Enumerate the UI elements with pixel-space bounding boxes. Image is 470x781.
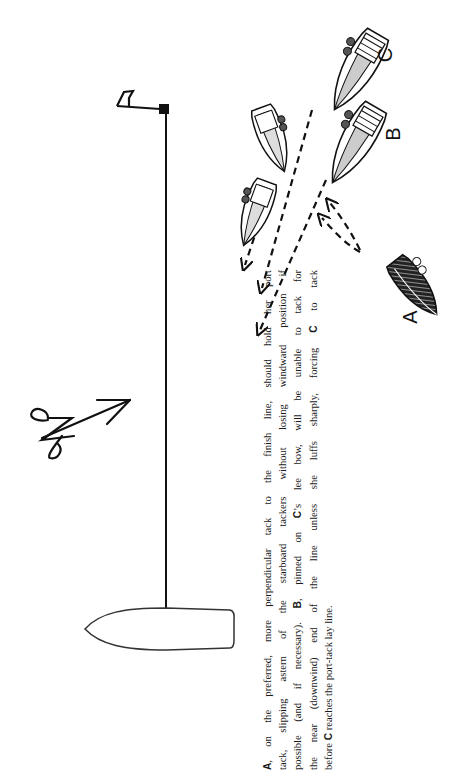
caption-line: tack, slipping astern of the starboard t… — [275, 270, 290, 770]
caption-line: possible (and if necessary). B, pinned o… — [290, 270, 305, 770]
boat-c — [314, 22, 392, 117]
caption-bold: C — [308, 326, 319, 333]
caption-line: A, on the preferred, more perpendicular … — [260, 270, 275, 770]
caption-line: the near (downwind) end of the line unle… — [306, 270, 321, 770]
committee-boat — [85, 608, 234, 650]
caption-text: the near (downwind) end of the line unle… — [308, 333, 319, 770]
caption-bold: A — [262, 763, 273, 770]
course-line-a2 — [322, 218, 360, 252]
caption-text: ’s lee bow, will be unable to tack for — [292, 270, 303, 511]
boat-label-b: B — [382, 127, 404, 140]
caption-text: before — [323, 740, 334, 770]
caption-text: reaches the port-tack lay line. — [323, 605, 334, 733]
figure-caption: A, on the preferred, more perpendicular … — [260, 270, 336, 770]
caption-text: , pinned on — [292, 518, 303, 601]
boat-c-ghost — [249, 101, 302, 176]
caption-bold: B — [292, 601, 303, 608]
wind-arrow-icon — [31, 400, 130, 458]
caption-text: tack, slipping astern of the starboard t… — [277, 270, 288, 770]
caption-text: , on the preferred, more perpendicular t… — [262, 270, 273, 763]
caption-bold: C — [323, 733, 334, 740]
caption-bold: C — [292, 511, 303, 518]
race-finish-diagram: C B A — [0, 0, 470, 781]
boat-b — [312, 95, 390, 190]
flag-buoy-icon — [117, 91, 169, 114]
boat-label-a: A — [399, 310, 421, 324]
boat-b-ghost — [226, 175, 279, 250]
caption-text: possible (and if necessary). — [292, 608, 303, 770]
caption-text: to tack — [308, 270, 319, 326]
caption-line: before C reaches the port-tack lay line. — [321, 270, 336, 770]
boat-label-c: C — [374, 48, 396, 62]
